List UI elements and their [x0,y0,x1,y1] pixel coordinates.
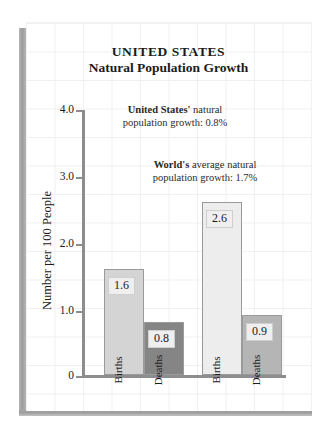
y-tick-mark-2 [76,244,82,246]
y-tick-label-4: 4.0 [40,103,74,115]
chart-subtitle: Natural Population Growth [26,60,311,76]
y-tick-mark-3 [76,177,82,179]
bar-world-deaths-category: Deaths [250,355,262,386]
annotation-united-states-bold: United States' [128,104,191,115]
chart-figure: UNITED STATES Natural Population Growth … [0,0,326,437]
y-tick-label-0: 0 [40,369,74,381]
annotation-united-states-line1: United States' natural [100,104,250,117]
y-axis-title: Number per 100 People [40,151,55,351]
annotation-united-states-line2: population growth: 0.8% [100,117,250,130]
bar-world-births-category: Births [210,357,222,384]
data-label-world-deaths: 0.9 [246,323,273,341]
y-axis-line [82,110,85,378]
annotation-world: World's average natural population growt… [120,159,290,184]
y-tick-mark-1 [76,311,82,313]
data-label-us-births: 1.6 [108,277,135,295]
bar-us-births-category: Births [112,357,124,384]
annotation-world-bold: World's [154,159,190,170]
annotation-world-rest: average natural [189,159,256,170]
chart-title: UNITED STATES [26,44,311,60]
annotation-united-states-rest: natural [190,104,222,115]
y-tick-mark-0 [76,376,82,378]
y-tick-mark-4 [76,110,82,112]
annotation-world-line2: population growth: 1.7% [120,172,290,185]
annotation-united-states: United States' natural population growth… [100,104,250,129]
data-label-world-births: 2.6 [206,210,233,228]
data-label-us-deaths: 0.8 [148,330,175,348]
chart-title-block: UNITED STATES Natural Population Growth [26,44,311,76]
bar-us-deaths-category: Deaths [152,355,164,386]
annotation-world-line1: World's average natural [120,159,290,172]
